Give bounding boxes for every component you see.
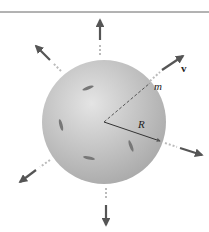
- mass-label: m: [154, 80, 162, 92]
- velocity-label: v: [181, 62, 187, 74]
- radius-label: R: [138, 118, 145, 130]
- expanding-sphere-diagram: [0, 0, 209, 232]
